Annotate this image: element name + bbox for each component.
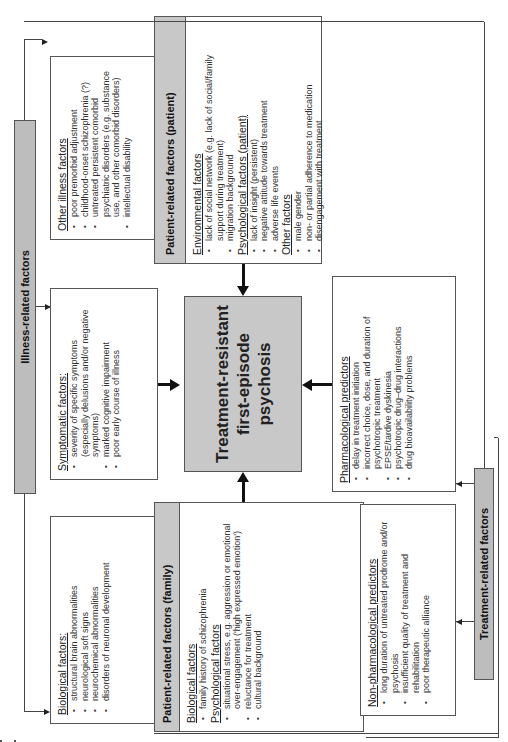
symptomatic-factors-title: Symptomatic factors: [56,297,68,471]
pharmacological-box: Pharmacological predictors delay in trea… [332,276,456,492]
symptomatic-factors-box: Symptomatic factors: severity of specifi… [50,288,158,480]
patient-patient-header: Patient-related factors (patient) [155,17,186,263]
list-item: childhood-onset schizophrenia (?) [80,65,91,217]
center-label-line2: first-episode [233,333,254,435]
treatment-related-factors-banner: Treatment-related factors [474,468,494,680]
list-item: marked cognitive impairment [101,297,112,457]
list-item: insufficient quality of treatment and re… [400,513,421,693]
family-biological-title: Biological factors [185,511,197,723]
list-item: lack of insight (persistent) [249,25,260,241]
patient-family-header: Patient-related factors (family) [155,503,180,731]
list-item: untreated persistent comorbid psychiatri… [90,65,122,217]
list-item: delay in treatment initiation [351,285,362,469]
biological-factors-box: Biological factors: structural brain abn… [50,516,158,724]
list-item: negative attitude towards treatment [259,25,270,241]
list-item: psychotropic drug–drug interactions [393,285,404,469]
list-item: EPSE/tardive dyskinesia [383,285,394,469]
treatment-related-factors-label: Treatment-related factors [478,508,490,640]
center-outcome-box: Treatment-resistant first-episode psycho… [184,296,302,472]
patient-family-block: Patient-related factors (family) Biologi… [154,502,364,732]
illness-related-factors-label: Illness-related factors [19,250,31,364]
diagram-canvas: Illness-related factors Biological facto… [0,0,508,742]
pharmacological-title: Pharmacological predictors [338,285,350,483]
list-item: structural brain abnormalities [69,525,80,701]
center-label-line1: Treatment-resistant [212,305,233,463]
list-item: family history of schizophrenia [198,511,209,709]
list-item: reluctance for treatment [243,511,254,709]
other-illness-factors-title: Other illness factors [56,65,68,231]
non-pharmacological-title: Non-pharmacological predictors [366,513,378,707]
list-item: poor therapeutic alliance [421,513,432,693]
other-illness-factors-box: Other illness factors poor premorbid adj… [50,56,158,240]
center-label-line3: psychosis [254,342,275,425]
list-item: disengagement with treatment [314,25,325,241]
list-item: intellectual disability [122,65,133,217]
list-item: disorders of neuronal development [101,525,112,701]
list-item: cultural background [253,511,264,709]
list-item: drug bioavailability problems [404,285,415,469]
list-item: male gender [293,25,304,241]
list-item: poor early course of illness [111,297,122,457]
family-psychological-title: Psychological factors [209,511,221,723]
list-item: long duration of untreated prodrome and/… [379,513,400,693]
illness-related-factors-banner: Illness-related factors [14,120,36,494]
other-factors-title: Other factors [280,25,292,255]
patient-patient-block: Patient-related factors (patient) Enviro… [154,16,322,264]
biological-factors-title: Biological factors: [56,525,68,715]
list-item: severity of specific symptoms (especiall… [69,297,101,457]
list-item: poor premorbid adjustment [69,65,80,217]
environmental-factors-title: Environmental factors [191,25,203,255]
list-item: migration background [225,25,236,241]
non-pharmacological-box: Non-pharmacological predictors long dura… [360,504,456,716]
list-item: situational stress, e.g. aggression or e… [222,511,243,709]
list-item: neurochemical abnormalities [90,525,101,701]
list-item: non- or partial adherence to medication [304,25,315,241]
psychological-patient-title: Psychological factors (patient) [236,25,248,255]
list-item: incorrect choice, dose, and duration of … [362,285,383,469]
list-item: neurological soft signs [80,525,91,701]
list-item: adverse life events [270,25,281,241]
list-item: lack of social network (e.g. lack of soc… [204,25,225,241]
